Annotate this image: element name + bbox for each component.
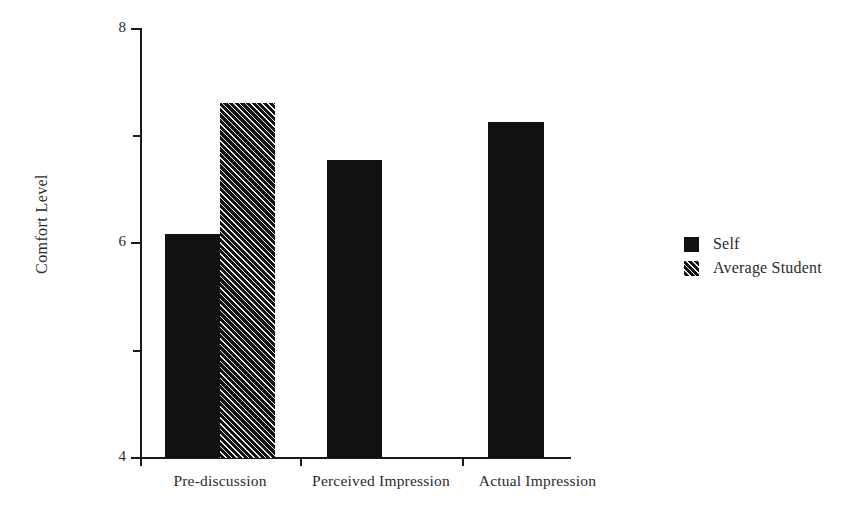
- y-tick-label-4: 4: [86, 448, 126, 465]
- legend-label-self: Self: [713, 235, 740, 253]
- y-tick-4: [131, 457, 140, 459]
- y-axis-line: [140, 28, 142, 459]
- y-tick-6: [131, 242, 140, 244]
- bar-average-student-pre-discussion: [220, 103, 275, 458]
- y-tick-minor-5: [133, 350, 140, 352]
- legend-label-average-student: Average Student: [713, 259, 822, 277]
- x-label-pre-discussion: Pre-discussion: [140, 472, 300, 490]
- y-tick-label-6: 6: [86, 233, 126, 250]
- y-tick-label-8: 8: [86, 19, 126, 36]
- x-tick-1: [300, 457, 302, 466]
- y-axis-title: Comfort Level: [33, 149, 51, 299]
- legend-item-average-student: Average Student: [684, 256, 822, 280]
- y-tick-8: [131, 28, 140, 30]
- solid-black-swatch-icon: [684, 237, 699, 252]
- x-tick-left: [140, 457, 142, 466]
- bar-self-actual-impression: [488, 122, 544, 458]
- x-label-perceived-impression: Perceived Impression: [285, 472, 477, 490]
- legend-item-self: Self: [684, 232, 822, 256]
- bar-self-perceived-impression: [327, 160, 382, 458]
- x-tick-2: [462, 457, 464, 466]
- hatched-swatch-icon: [684, 261, 699, 276]
- x-label-actual-impression: Actual Impression: [455, 472, 620, 490]
- bar-self-pre-discussion: [165, 234, 220, 458]
- bar-chart-figure: Comfort Level 8 6 4 Pre-discussion Perce…: [0, 0, 861, 512]
- y-tick-minor-7: [133, 135, 140, 137]
- legend: Self Average Student: [684, 232, 822, 280]
